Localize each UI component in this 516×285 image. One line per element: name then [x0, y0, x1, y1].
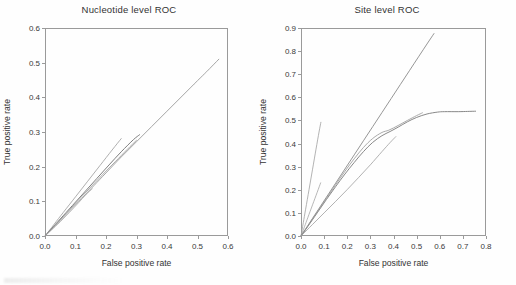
x-tick-label: 0.6 — [434, 242, 445, 251]
x-axis-title-left: False positive rate — [45, 258, 228, 268]
y-tick-label: 0.0 — [274, 232, 296, 241]
y-tick-label: 0.2 — [18, 162, 40, 171]
y-tick — [298, 120, 301, 121]
y-tick-label: 0.4 — [18, 93, 40, 102]
x-tick — [45, 236, 46, 239]
y-tick-label: 0.4 — [274, 139, 296, 148]
x-tick-label: 0.0 — [295, 242, 306, 251]
roc-curve — [45, 140, 137, 236]
roc-curve — [45, 139, 121, 236]
x-tick — [440, 236, 441, 239]
roc-curve — [301, 183, 321, 236]
panel-left-title: Nucleotide level ROC — [0, 4, 258, 15]
x-tick — [301, 236, 302, 239]
y-tick-label: 0.0 — [18, 232, 40, 241]
x-tick — [137, 236, 138, 239]
x-tick-label: 0.4 — [388, 242, 399, 251]
y-tick — [42, 97, 45, 98]
y-tick-label: 0.7 — [274, 70, 296, 79]
y-tick-label: 0.1 — [18, 197, 40, 206]
y-tick — [298, 213, 301, 214]
x-tick — [167, 236, 168, 239]
y-tick — [298, 236, 301, 237]
y-tick — [298, 97, 301, 98]
y-tick-label: 0.3 — [274, 162, 296, 171]
scan-artifact — [4, 278, 124, 283]
x-tick-label: 0.0 — [39, 242, 50, 251]
x-tick — [324, 236, 325, 239]
curves-left — [45, 28, 228, 236]
x-tick — [394, 236, 395, 239]
y-tick-label: 0.6 — [274, 93, 296, 102]
x-axis-title-right: False positive rate — [301, 258, 486, 268]
x-tick-label: 0.4 — [161, 242, 172, 251]
y-tick-label: 0.1 — [274, 208, 296, 217]
x-tick-label: 0.5 — [192, 242, 203, 251]
panel-site-level-roc: Site level ROC False positive rate True … — [258, 0, 516, 285]
y-tick — [298, 190, 301, 191]
x-tick-label: 0.8 — [480, 242, 491, 251]
x-tick — [106, 236, 107, 239]
y-tick — [42, 236, 45, 237]
y-tick — [298, 167, 301, 168]
panel-right-title: Site level ROC — [258, 4, 516, 15]
x-tick-label: 0.1 — [70, 242, 81, 251]
roc-curve — [45, 59, 219, 236]
plot-area-right — [301, 28, 486, 236]
x-tick — [76, 236, 77, 239]
y-tick — [298, 144, 301, 145]
x-tick-label: 0.3 — [365, 242, 376, 251]
y-axis-title-left: True positive rate — [2, 99, 12, 165]
y-tick-label: 0.6 — [18, 24, 40, 33]
roc-curve — [301, 111, 476, 236]
y-tick-label: 0.8 — [274, 47, 296, 56]
x-tick — [347, 236, 348, 239]
y-tick — [42, 63, 45, 64]
x-tick-label: 0.2 — [100, 242, 111, 251]
x-tick-label: 0.6 — [222, 242, 233, 251]
x-tick-label: 0.7 — [457, 242, 468, 251]
x-tick-label: 0.1 — [319, 242, 330, 251]
y-tick — [42, 132, 45, 133]
plot-area-left — [45, 28, 228, 236]
x-tick — [370, 236, 371, 239]
y-tick — [298, 51, 301, 52]
x-tick — [228, 236, 229, 239]
y-tick — [42, 167, 45, 168]
x-tick — [417, 236, 418, 239]
panel-nucleotide-level-roc: Nucleotide level ROC False positive rate… — [0, 0, 258, 285]
x-tick — [486, 236, 487, 239]
y-tick-label: 0.5 — [18, 58, 40, 67]
x-tick-label: 0.2 — [342, 242, 353, 251]
y-tick-label: 0.9 — [274, 24, 296, 33]
curves-right — [301, 28, 486, 236]
y-tick-label: 0.3 — [18, 128, 40, 137]
y-tick-label: 0.5 — [274, 116, 296, 125]
x-tick — [198, 236, 199, 239]
x-tick-label: 0.5 — [411, 242, 422, 251]
y-tick — [42, 201, 45, 202]
y-axis-title-right: True positive rate — [258, 99, 268, 165]
y-tick — [298, 28, 301, 29]
y-tick — [298, 74, 301, 75]
x-tick — [463, 236, 464, 239]
y-tick-label: 0.2 — [274, 185, 296, 194]
roc-figure: Nucleotide level ROC False positive rate… — [0, 0, 516, 285]
y-tick — [42, 28, 45, 29]
roc-curve — [301, 34, 434, 236]
x-tick-label: 0.3 — [131, 242, 142, 251]
